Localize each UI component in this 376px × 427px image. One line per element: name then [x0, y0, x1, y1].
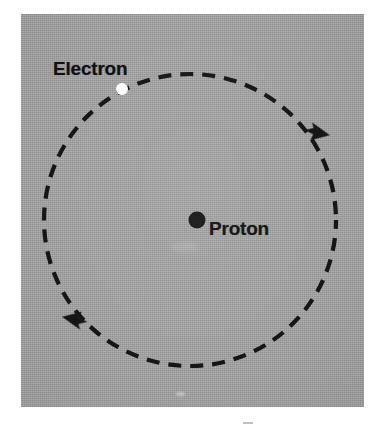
proton-dot [189, 212, 206, 229]
electron-label: Electron [53, 59, 127, 78]
scanned-figure-plate: Electron Proton [21, 14, 364, 407]
page-artifact [243, 422, 253, 424]
scan-smudge [171, 242, 199, 252]
scan-speck [176, 392, 185, 396]
direction-arrow-lower-left-icon [62, 306, 90, 334]
proton-label: Proton [209, 219, 269, 238]
figure-root: Electron Proton [0, 0, 376, 427]
electron-dot [116, 83, 128, 95]
